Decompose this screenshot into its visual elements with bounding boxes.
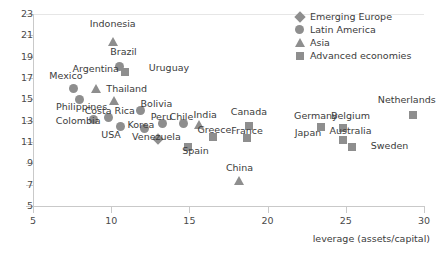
data-point-label-belgium: Belgium [331,111,370,121]
x-tick-mark [268,206,269,213]
y-tick-label: 17 [9,73,33,83]
legend-item-asia[interactable]: Asia [294,36,411,49]
y-tick-label: 9 [9,158,33,168]
y-tick-label: 19 [9,52,33,62]
y-tick-label-wrap: 17 [0,73,33,83]
y-tick-label-wrap: 19 [0,52,33,62]
data-point-label-usa: USA [101,130,121,140]
data-point-label-indonesia: Indonesia [90,19,136,29]
x-tick-label: 20 [248,215,288,226]
legend-label: Advanced economies [310,50,411,61]
legend-label: Latin America [310,24,376,35]
y-tick-label: 11 [9,137,33,147]
x-tick-mark [189,206,190,213]
legend-label: Asia [310,37,330,48]
data-point-label-venezuela: Venezuela [132,132,181,142]
y-tick-label: 13 [9,116,33,126]
x-tick-label: 30 [404,215,440,226]
data-point-uruguay[interactable] [121,68,129,76]
x-axis-line [33,206,424,207]
data-point-label-colombia: Colombia [56,116,101,126]
legend-item-emerging-europe[interactable]: Emerging Europe [294,10,411,23]
y-tick-label-wrap: 5 [0,201,33,211]
legend: Emerging EuropeLatin AmericaAsiaAdvanced… [294,10,411,62]
x-tick-label: 15 [169,215,209,226]
y-tick-label-wrap: 9 [0,158,33,168]
data-point-label-chile: Chile [170,112,194,122]
y-tick-label-wrap: 23 [0,9,33,19]
data-point-label-india: India [194,110,217,120]
data-point-label-australia: Australia [329,126,371,136]
triangle-marker-icon [294,37,305,48]
y-tick-label: 15 [9,94,33,104]
x-tick-mark [33,206,34,213]
y-tick-label-wrap: 11 [0,137,33,147]
diamond-marker-icon [294,11,305,22]
y-tick-label-wrap: 15 [0,94,33,104]
x-tick-label: 5 [13,215,53,226]
y-tick-label: 23 [9,9,33,19]
x-tick-label: 10 [91,215,131,226]
x-tick-mark [424,206,425,213]
data-point-label-sweden: Sweden [371,141,409,151]
data-point-label-uruguay: Uruguay [149,63,189,73]
data-point-australia[interactable] [339,136,347,144]
legend-item-latin-america[interactable]: Latin America [294,23,411,36]
y-tick-label-wrap: 21 [0,30,33,40]
data-point-label-brazil: Brazil [110,47,137,57]
y-tick-label: 5 [9,201,33,211]
legend-label: Emerging Europe [310,11,392,22]
data-point-label-mexico: Mexico [49,71,82,81]
data-point-label-bolivia: Bolivia [141,99,173,109]
data-point-sweden[interactable] [348,143,356,151]
y-tick-label-wrap: 7 [0,180,33,190]
legend-item-advanced-economies[interactable]: Advanced economies [294,49,411,62]
data-point-indonesia[interactable] [108,37,118,46]
data-point-netherlands[interactable] [409,111,417,119]
data-point-label-canada: Canada [231,107,267,117]
square-marker-icon [294,50,305,61]
x-tick-mark [111,206,112,213]
data-point-label-china: China [226,163,253,173]
data-point-germany[interactable] [317,123,325,131]
y-tick-label: 21 [9,30,33,40]
x-axis-title: leverage (assets/capital) [310,233,430,244]
data-point-label-greece: Greece [197,125,231,135]
data-point-label-netherlands: Netherlands [378,95,436,105]
x-tick-mark [346,206,347,213]
x-tick-label: 25 [326,215,366,226]
circle-marker-icon [294,24,305,35]
cropped-caption-line [34,0,424,6]
data-point-argentina[interactable] [91,84,101,93]
data-point-china[interactable] [234,176,244,185]
data-point-label-france: France [231,126,263,136]
data-point-label-spain: Spain [182,146,209,156]
y-tick-label: 7 [9,180,33,190]
data-point-label-thailand: Thailand [106,84,147,94]
y-tick-label-wrap: 13 [0,116,33,126]
